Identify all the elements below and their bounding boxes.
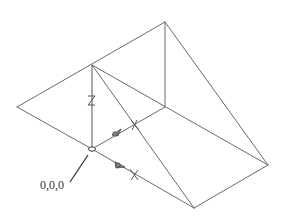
- edge-bottom-to-right: [194, 165, 268, 208]
- origin-marker-icon: [89, 147, 96, 151]
- wireframe-diagram: 0,0,0: [0, 0, 289, 223]
- origin-label: 0,0,0: [40, 178, 64, 193]
- origin-leader-line: [70, 155, 88, 182]
- edge-origin-to-inner: [92, 107, 165, 149]
- x-axis-arrow-icon: [115, 162, 125, 168]
- edge-lefttop-to-right: [92, 65, 268, 165]
- edge-origin-to-bottom: [92, 149, 194, 208]
- edge-apex-to-right: [165, 22, 268, 165]
- y-axis-arrow-icon: [112, 129, 121, 136]
- y-axis-tick-icon: [131, 120, 139, 130]
- edge-left-to-origin: [17, 107, 92, 149]
- edge-lefttop-to-bottom: [92, 65, 194, 208]
